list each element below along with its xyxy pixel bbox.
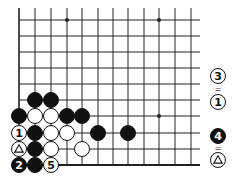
black-stone-4: 4 bbox=[211, 129, 226, 144]
black-stone bbox=[12, 109, 27, 124]
black-stone-2: 2 bbox=[12, 158, 27, 173]
black-stone bbox=[91, 126, 106, 141]
black-stone bbox=[28, 142, 43, 157]
go-board-diagram: 125 3=14= bbox=[0, 0, 234, 177]
black-stone bbox=[28, 158, 43, 173]
move-number: 3 bbox=[214, 70, 222, 83]
move-number: 1 bbox=[214, 96, 222, 109]
white-stone bbox=[28, 109, 43, 124]
white-stone bbox=[44, 126, 59, 141]
move-number: 5 bbox=[47, 159, 55, 172]
white-stone-1: 1 bbox=[12, 126, 27, 141]
white-stone bbox=[44, 109, 59, 124]
white-stone-3: 3 bbox=[211, 69, 226, 84]
star-point bbox=[157, 114, 161, 118]
black-stone bbox=[60, 109, 75, 124]
white-stone-triangle bbox=[12, 142, 27, 157]
board-grid bbox=[19, 8, 200, 165]
black-stone bbox=[28, 126, 43, 141]
star-point bbox=[157, 18, 161, 22]
black-stone bbox=[121, 126, 136, 141]
white-stone bbox=[60, 126, 75, 141]
black-stone bbox=[44, 93, 59, 108]
move-number: 1 bbox=[15, 127, 23, 140]
equals-sign: = bbox=[215, 85, 222, 94]
white-stone bbox=[44, 142, 59, 157]
equals-sign: = bbox=[215, 144, 222, 153]
star-point bbox=[65, 18, 69, 22]
white-stone bbox=[75, 142, 90, 157]
black-stone bbox=[28, 93, 43, 108]
white-stone-1: 1 bbox=[211, 95, 226, 110]
move-annotations: 3=14= bbox=[211, 69, 226, 168]
black-stone bbox=[75, 109, 90, 124]
white-stone-triangle bbox=[211, 153, 226, 168]
move-number: 2 bbox=[15, 159, 23, 172]
move-number: 4 bbox=[214, 130, 222, 143]
white-stone-5: 5 bbox=[44, 158, 59, 173]
